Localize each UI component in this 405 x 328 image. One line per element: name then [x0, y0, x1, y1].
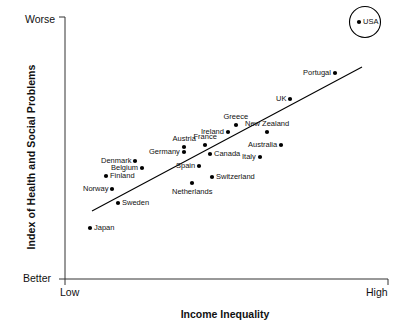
data-point-label: Greece: [224, 113, 249, 121]
data-point-label: Japan: [94, 224, 114, 232]
data-point[interactable]: [226, 130, 230, 134]
trendline: [92, 67, 362, 211]
data-point[interactable]: [210, 175, 214, 179]
y-tick-label-better: Better: [23, 272, 51, 284]
data-point[interactable]: [182, 150, 186, 154]
data-point[interactable]: [203, 143, 207, 147]
data-point-label: New Zealand: [245, 120, 289, 128]
data-point-label: Netherlands: [172, 188, 212, 196]
x-axis-title: Income Inequality: [60, 308, 390, 320]
data-point[interactable]: [279, 143, 283, 147]
data-point-label: Germany: [149, 148, 180, 156]
trendline-segment: [92, 67, 362, 211]
plot-canvas: [0, 0, 405, 328]
data-point-label: Canada: [214, 150, 240, 158]
data-point-label: USA: [363, 18, 378, 26]
y-axis-title: Index of Health and Social Problems: [25, 47, 37, 267]
data-point-label: Italy: [242, 153, 256, 161]
data-point-label: Spain: [176, 162, 195, 170]
data-point[interactable]: [182, 145, 186, 149]
data-point[interactable]: [208, 152, 212, 156]
x-tick-label-high: High: [366, 286, 388, 298]
data-point[interactable]: [333, 71, 337, 75]
y-tick-label-worse: Worse: [25, 13, 55, 25]
data-point-label: UK: [276, 95, 286, 103]
data-point-label: Belgium: [111, 164, 138, 172]
data-point[interactable]: [234, 123, 238, 127]
data-point[interactable]: [357, 20, 361, 24]
data-point[interactable]: [110, 187, 114, 191]
data-point-label: Denmark: [101, 157, 131, 165]
data-point[interactable]: [140, 166, 144, 170]
data-point-label: Norway: [83, 185, 108, 193]
data-point[interactable]: [265, 130, 269, 134]
data-point-label: Austria: [173, 135, 196, 143]
data-point[interactable]: [258, 155, 262, 159]
data-point-label: Ireland: [201, 128, 224, 136]
data-point-label: Sweden: [122, 199, 149, 207]
data-point[interactable]: [88, 226, 92, 230]
x-tick-label-low: Low: [60, 286, 79, 298]
scatter-chart: Index of Health and Social Problems Inco…: [0, 0, 405, 328]
data-point[interactable]: [116, 201, 120, 205]
data-point-label: Finland: [110, 172, 135, 180]
data-point[interactable]: [104, 174, 108, 178]
data-point[interactable]: [197, 164, 201, 168]
data-point-label: Australia: [248, 141, 277, 149]
data-point[interactable]: [288, 97, 292, 101]
data-point-label: Switzerland: [216, 173, 255, 181]
data-point[interactable]: [190, 181, 194, 185]
data-point-label: Portugal: [303, 69, 331, 77]
